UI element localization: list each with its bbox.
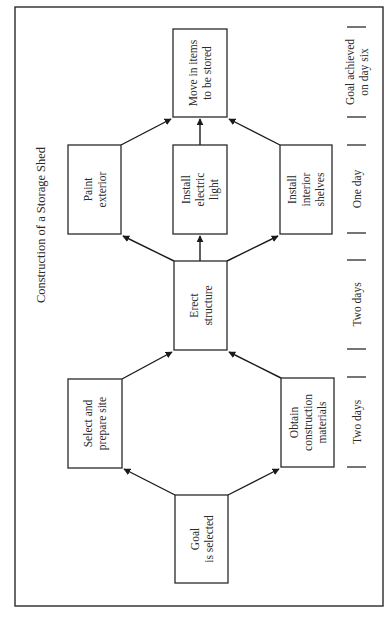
node-label-line: Move in items	[187, 39, 199, 106]
node-label-line: Paint	[82, 177, 94, 201]
node-label-line: interior	[300, 172, 312, 206]
node-label-line: prepare site	[96, 397, 109, 450]
arrow-goal-to-materials	[228, 469, 279, 495]
node-light: Installelectriclight	[173, 145, 227, 234]
node-box	[174, 261, 227, 350]
node-label-line: materials	[316, 401, 328, 444]
node-label-line: construction	[302, 394, 314, 451]
diagram-title: Construction of a Storage Shed	[34, 146, 48, 303]
timeline-label-line: Goal achieved	[344, 39, 356, 105]
arrow-materials-to-erect	[229, 352, 281, 378]
node-box	[175, 495, 228, 583]
arrow-site-to-erect	[122, 352, 172, 379]
timeline-label: Two days	[351, 399, 364, 444]
node-label-line: light	[208, 178, 221, 200]
timeline-label: Two days	[351, 282, 364, 327]
node-label: Select andprepare site	[82, 397, 109, 450]
node-label-line: exterior	[96, 171, 108, 207]
node-label-line: Install	[180, 175, 192, 204]
node-label-line: electric	[194, 173, 206, 207]
node-label-line: Obtain	[288, 407, 300, 439]
arrow-paint-to-move	[121, 119, 171, 145]
node-label-line: Goal	[189, 528, 201, 550]
node-label-line: to be stored	[201, 46, 213, 100]
arrow-goal-to-site	[124, 469, 175, 495]
node-label-line: shelves	[314, 172, 326, 206]
node-move: Move in itemsto be stored	[173, 29, 227, 117]
node-site: Select andprepare site	[68, 379, 122, 468]
timeline-label-line: Two days	[351, 399, 364, 444]
node-label-line: Install	[286, 175, 298, 204]
nodes: Goalis selectedSelect andprepare siteObt…	[68, 29, 334, 583]
node-box	[68, 145, 121, 234]
node-paint: Paintexterior	[68, 145, 121, 234]
timeline-label: Goal achievedon day six	[344, 39, 371, 105]
node-erect: Erectstructure	[174, 261, 227, 350]
timeline-label-line: on day six	[358, 48, 371, 96]
timeline-label-line: One day	[351, 169, 364, 208]
node-box	[173, 29, 227, 117]
arrow-shelves-to-move	[229, 119, 280, 145]
node-label-line: Select and	[82, 399, 94, 447]
node-label-line: Erect	[188, 293, 200, 318]
timeline: Two daysTwo daysOne dayGoal achievedon d…	[344, 27, 371, 467]
arrow-erect-to-shelves	[227, 236, 278, 261]
node-materials: Obtainconstructionmaterials	[281, 378, 334, 467]
storage-shed-diagram: Construction of a Storage Shed Goalis se…	[0, 0, 391, 617]
node-label-line: structure	[202, 285, 214, 325]
node-shelves: Installinteriorshelves	[280, 145, 332, 234]
node-goal: Goalis selected	[175, 495, 228, 583]
timeline-label-line: Two days	[351, 282, 364, 327]
arrow-erect-to-paint	[123, 236, 174, 261]
node-label-line: is selected	[203, 515, 215, 563]
node-label: Installinteriorshelves	[286, 172, 326, 206]
node-box	[68, 379, 122, 468]
timeline-label: One day	[351, 169, 364, 208]
